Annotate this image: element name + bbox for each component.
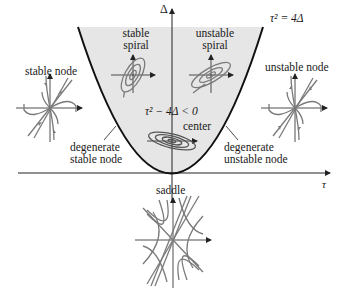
stable-spiral-label: stable spiral xyxy=(116,27,156,51)
saddle-label: saddle xyxy=(156,184,185,196)
parabola-equation-label: τ² = 4Δ xyxy=(270,12,304,24)
degenerate-stable-pointer xyxy=(104,126,116,140)
delta-axis-label: Δ xyxy=(160,3,168,15)
degenerate-unstable-pointer xyxy=(226,126,238,140)
degenerate-stable-line1: degenerate xyxy=(70,141,122,153)
degenerate-stable-line2: stable node xyxy=(70,153,122,165)
stable-spiral-line1: stable xyxy=(116,27,156,39)
unstable-spiral-line1: unstable xyxy=(190,27,240,39)
degenerate-stable-node-label: degenerate stable node xyxy=(70,141,122,165)
stable-node-portrait xyxy=(16,74,82,142)
tau-axis-label: τ xyxy=(322,178,326,190)
unstable-node-portrait xyxy=(261,74,327,142)
unstable-spiral-label: unstable spiral xyxy=(190,27,240,51)
degenerate-unstable-line1: degenerate xyxy=(224,141,288,153)
stable-spiral-line2: spiral xyxy=(116,39,156,51)
saddle-portrait xyxy=(135,196,211,288)
degenerate-unstable-node-label: degenerate unstable node xyxy=(224,141,288,165)
degenerate-unstable-line2: unstable node xyxy=(224,153,288,165)
trace-determinant-diagram: Δ τ τ² = 4Δ τ² − 4Δ < 0 stable spiral un… xyxy=(0,0,338,302)
stable-node-label: stable node xyxy=(25,65,77,77)
region-inequality-label: τ² − 4Δ < 0 xyxy=(145,105,198,117)
unstable-spiral-line2: spiral xyxy=(190,39,240,51)
center-label: center xyxy=(183,120,211,132)
unstable-node-label: unstable node xyxy=(265,61,329,73)
